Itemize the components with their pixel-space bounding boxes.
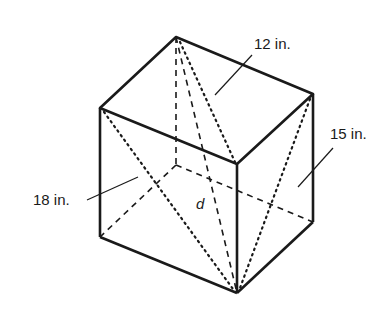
space-diagonal-d (176, 37, 237, 293)
prism-diagram: 12 in. 15 in. 18 in. d (0, 0, 389, 317)
front-left-face-diagonal (104, 112, 233, 289)
prism-figure (0, 0, 389, 317)
leader-18in (87, 177, 138, 200)
label-18in: 18 in. (33, 192, 70, 207)
hidden-edges (100, 37, 313, 293)
label-12in: 12 in. (254, 36, 291, 51)
label-15in: 15 in. (330, 126, 367, 141)
bottom-right-edge (237, 222, 313, 293)
visible-edges (100, 37, 313, 293)
hidden-left-bottom-edge (100, 165, 176, 237)
label-diagonal-d: d (196, 196, 204, 211)
leader-15in (298, 148, 333, 187)
hidden-right-bottom-edge (176, 165, 313, 222)
